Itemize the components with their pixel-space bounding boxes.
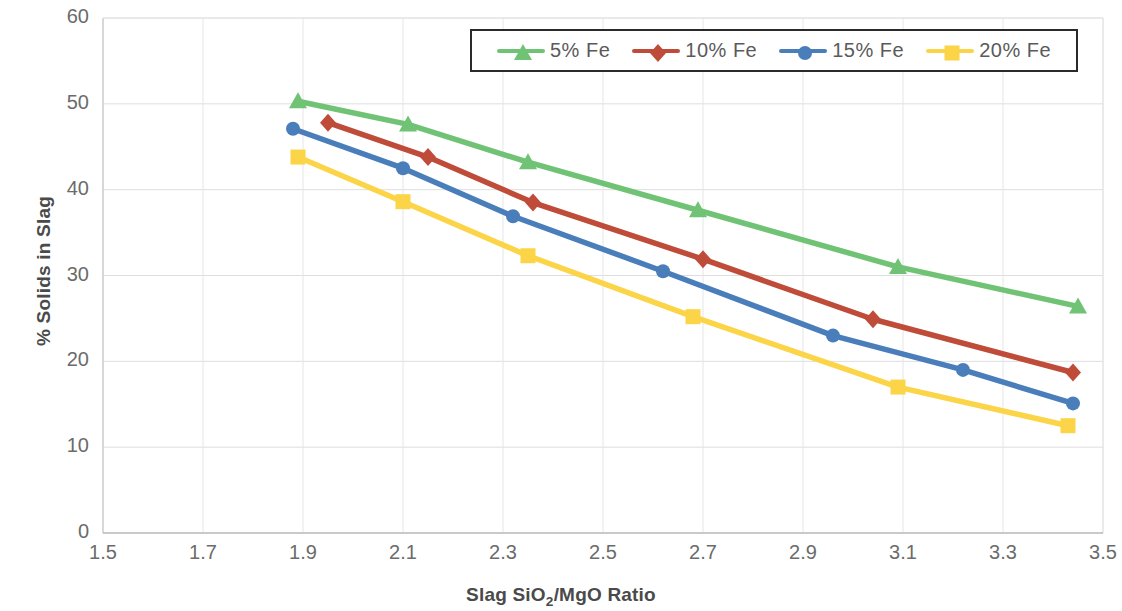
x-tick-label: 3.5 — [1068, 541, 1122, 564]
x-tick-label: 1.5 — [68, 541, 138, 564]
legend-label: 20% Fe — [979, 39, 1051, 62]
series-10-fe — [320, 114, 1081, 382]
data-point-diamond — [650, 44, 666, 62]
data-point-square — [291, 150, 306, 165]
x-tick-label: 2.9 — [768, 541, 838, 564]
x-tick-label: 1.9 — [268, 541, 338, 564]
data-point-diamond — [865, 310, 881, 328]
y-tick-label: 50 — [19, 91, 89, 114]
series-line — [293, 129, 1073, 404]
legend-entry[interactable]: 5% Fe — [497, 39, 610, 62]
legend-entry[interactable]: 20% Fe — [926, 39, 1051, 62]
series-20-fe — [291, 150, 1076, 434]
legend-entry[interactable]: 10% Fe — [632, 39, 757, 62]
data-point-circle — [656, 264, 670, 278]
data-point-diamond — [695, 250, 711, 268]
gridlines — [103, 18, 1103, 533]
data-point-diamond — [1065, 363, 1081, 381]
series-15-fe — [286, 122, 1080, 411]
legend-entry[interactable]: 15% Fe — [779, 39, 904, 62]
series-line — [298, 157, 1068, 426]
data-point-triangle — [514, 44, 532, 60]
x-tick-label: 3.1 — [868, 541, 938, 564]
legend-swatch — [926, 42, 974, 60]
chart-legend: 5% Fe10% Fe15% Fe20% Fe — [470, 29, 1078, 72]
chart-container: % Solids in Slag Slag SiO2/MgO Ratio 010… — [0, 0, 1122, 611]
data-point-square — [396, 194, 411, 209]
x-tick-label: 1.7 — [168, 541, 238, 564]
plot-area — [0, 0, 1122, 611]
x-axis-title-part1: Slag SiO — [466, 584, 546, 605]
data-point-square — [686, 309, 701, 324]
legend-marker-diamond-icon — [649, 44, 667, 62]
x-axis-title: Slag SiO2/MgO Ratio — [0, 584, 1122, 609]
y-tick-label: 60 — [19, 5, 89, 28]
data-point-circle — [798, 46, 812, 60]
x-tick-label: 2.5 — [568, 541, 638, 564]
legend-marker-square-icon — [943, 44, 961, 62]
legend-marker-circle-icon — [796, 44, 814, 62]
data-point-circle — [956, 363, 970, 377]
x-tick-label: 2.7 — [668, 541, 738, 564]
y-tick-label: 30 — [19, 263, 89, 286]
data-point-square — [521, 248, 536, 263]
data-point-circle — [286, 122, 300, 136]
legend-label: 10% Fe — [685, 39, 757, 62]
y-tick-label: 40 — [19, 177, 89, 200]
x-axis-title-subscript: 2 — [546, 594, 554, 609]
data-point-circle — [826, 329, 840, 343]
legend-label: 5% Fe — [550, 39, 610, 62]
data-point-circle — [506, 209, 520, 223]
y-tick-label: 20 — [19, 348, 89, 371]
x-tick-label: 3.3 — [968, 541, 1038, 564]
y-tick-label: 10 — [19, 434, 89, 457]
data-point-diamond — [420, 148, 436, 166]
data-point-circle — [1066, 396, 1080, 410]
data-point-diamond — [525, 194, 541, 212]
data-point-square — [1061, 418, 1076, 433]
x-axis-title-part2: /MgO Ratio — [554, 584, 656, 605]
legend-swatch — [497, 42, 545, 60]
legend-swatch — [779, 42, 827, 60]
data-point-square — [891, 380, 906, 395]
series-line — [328, 123, 1073, 373]
data-point-square — [945, 45, 960, 60]
y-tick-label: 0 — [19, 520, 89, 543]
x-tick-label: 2.3 — [468, 541, 538, 564]
data-point-diamond — [320, 114, 336, 132]
legend-label: 15% Fe — [832, 39, 904, 62]
data-point-circle — [396, 161, 410, 175]
x-tick-label: 2.1 — [368, 541, 438, 564]
legend-marker-triangle-icon — [514, 44, 532, 62]
legend-swatch — [632, 42, 680, 60]
